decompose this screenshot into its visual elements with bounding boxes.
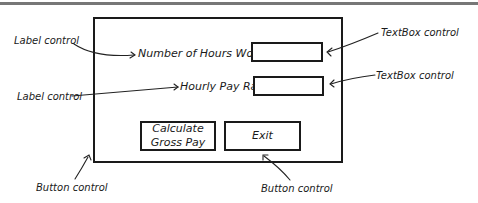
arrow-to-exit-button: [264, 156, 290, 180]
arrow-to-hours-label: [74, 44, 134, 56]
arrow-to-hours-textbox: [328, 33, 378, 52]
arrow-to-calculate-button: [75, 157, 88, 179]
arrow-to-rate-textbox: [331, 75, 375, 84]
annotation-arrows: [0, 0, 478, 203]
arrow-to-rate-label: [72, 87, 178, 96]
